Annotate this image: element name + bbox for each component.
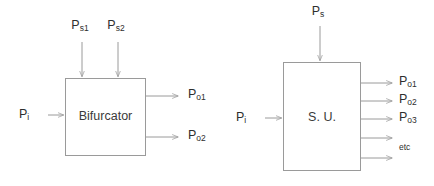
label-left-output-2: Po2: [188, 128, 206, 143]
right-block-group: S. U. Ps Pi Po1 Po2 Po3 etc: [236, 4, 417, 170]
bifurcator-block-label: Bifurcator: [79, 109, 133, 123]
su-block-label: S. U.: [308, 110, 336, 124]
diagram-canvas: Bifurcator Ps1 Ps2 Pi Po1 Po2 S. U.: [0, 0, 434, 186]
label-left-side-input: Pi: [19, 107, 29, 122]
label-left-top-input-1: Ps1: [71, 18, 89, 33]
label-right-side-input: Pi: [236, 110, 246, 125]
label-right-output-3: Po3: [399, 110, 417, 125]
label-right-output-etc: etc: [399, 142, 411, 152]
label-right-output-2: Po2: [399, 92, 417, 107]
block-diagram-figure: Bifurcator Ps1 Ps2 Pi Po1 Po2 S. U.: [0, 0, 434, 186]
label-right-top-input: Ps: [312, 4, 325, 19]
label-left-output-1: Po1: [188, 87, 206, 102]
label-left-top-input-2: Ps2: [107, 18, 125, 33]
left-block-group: Bifurcator Ps1 Ps2 Pi Po1 Po2: [19, 18, 206, 155]
label-right-output-1: Po1: [399, 74, 417, 89]
